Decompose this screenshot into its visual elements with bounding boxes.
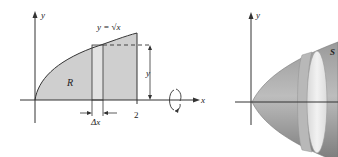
delta-x-right-arrowhead-icon	[103, 111, 108, 115]
rotation-arrowhead-icon	[175, 108, 179, 113]
height-arrow-top-icon	[148, 45, 152, 50]
tick-label-2: 2	[134, 110, 139, 120]
x-axis-arrow-icon	[193, 98, 200, 103]
region-r	[35, 33, 137, 100]
delta-x-left-arrowhead-icon	[87, 111, 92, 115]
left-figure: y x y = √x R y 2 Δx	[20, 10, 205, 127]
height-arrow-bottom-icon	[148, 95, 152, 100]
region-label: R	[66, 77, 73, 88]
y-axis-arrow-icon	[33, 11, 38, 18]
approximating-strip	[92, 45, 103, 100]
right-figure: y S	[235, 10, 338, 157]
y-axis-label-left: y	[40, 10, 45, 20]
height-label: y	[145, 68, 150, 78]
y-axis-right-arrow-icon	[249, 12, 254, 19]
y-axis-label-right: y	[255, 10, 260, 20]
delta-x-label: Δx	[90, 117, 100, 127]
curve-label: y = √x	[96, 22, 121, 32]
surface-label: S	[330, 47, 335, 57]
x-axis-label: x	[200, 95, 205, 105]
